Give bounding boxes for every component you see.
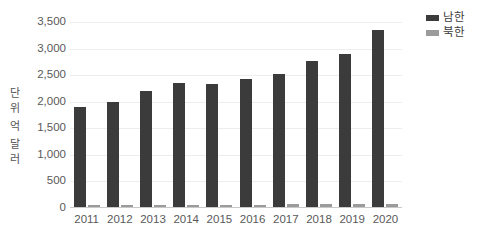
plot-area: [70, 22, 402, 208]
y-axis-tick-label: 2,500: [26, 69, 66, 81]
bar-남한-2018: [306, 61, 318, 208]
y-axis-title-char-5: 러: [4, 152, 26, 167]
bar-남한-2013: [140, 91, 152, 208]
y-axis-title-char-4: 달: [4, 137, 26, 152]
legend-label: 북한: [443, 26, 465, 39]
bar-group: [70, 22, 103, 208]
y-axis-tick-label: 2,000: [26, 96, 66, 108]
bar-chart: 단 위 억 달 러 05001,0001,5002,0002,5003,0003…: [0, 0, 482, 243]
bar-group: [103, 22, 136, 208]
bar-남한-2015: [206, 84, 218, 208]
legend-swatch-south: [426, 15, 439, 21]
legend-swatch-north: [426, 30, 439, 36]
y-axis-title-char-1: 단: [4, 86, 26, 101]
x-axis-tick-label: 2017: [269, 212, 302, 226]
y-axis-title-char-2: 위: [4, 101, 26, 116]
x-axis-tick-label: 2020: [369, 212, 402, 226]
x-axis-tick-label: 2011: [70, 212, 103, 226]
bar-남한-2011: [74, 107, 86, 208]
bar-group: [170, 22, 203, 208]
bar-group: [236, 22, 269, 208]
bar-group: [269, 22, 302, 208]
bar-group: [302, 22, 335, 208]
y-axis-title: 단 위 억 달 러: [4, 86, 26, 167]
y-axis-tick-label: 3,500: [26, 16, 66, 28]
bar-groups: [70, 22, 402, 208]
bar-남한-2012: [107, 102, 119, 208]
y-axis-tick-label: 0: [26, 202, 66, 214]
chart-legend: 남한북한: [426, 11, 465, 39]
x-axis-tick-labels: 2011201220132014201520162017201820192020: [70, 212, 402, 226]
bar-남한-2016: [240, 79, 252, 208]
y-axis-tick-label: 1,000: [26, 149, 66, 161]
x-axis-tick-label: 2015: [203, 212, 236, 226]
x-axis-tick-label: 2019: [336, 212, 369, 226]
bar-남한-2019: [339, 54, 351, 208]
legend-item[interactable]: 남한: [426, 11, 465, 24]
x-axis-tick-label: 2012: [103, 212, 136, 226]
y-axis-tick-label: 1,500: [26, 123, 66, 135]
bar-group: [336, 22, 369, 208]
x-axis-tick-label: 2018: [302, 212, 335, 226]
y-axis-tick-label: 3,000: [26, 43, 66, 55]
bar-남한-2014: [173, 83, 185, 208]
legend-item[interactable]: 북한: [426, 26, 465, 39]
x-axis-tick-label: 2016: [236, 212, 269, 226]
y-axis-title-char-3: 억: [4, 119, 26, 134]
bar-group: [369, 22, 402, 208]
bar-남한-2020: [372, 30, 384, 208]
y-axis-tick-labels: 05001,0001,5002,0002,5003,0003,500: [26, 0, 66, 243]
x-axis-tick-label: 2014: [170, 212, 203, 226]
bar-group: [203, 22, 236, 208]
x-axis-tick-label: 2013: [136, 212, 169, 226]
x-axis-line: [70, 207, 402, 208]
y-axis-tick-label: 500: [26, 176, 66, 188]
bar-남한-2017: [273, 74, 285, 208]
legend-label: 남한: [443, 11, 465, 24]
bar-group: [136, 22, 169, 208]
